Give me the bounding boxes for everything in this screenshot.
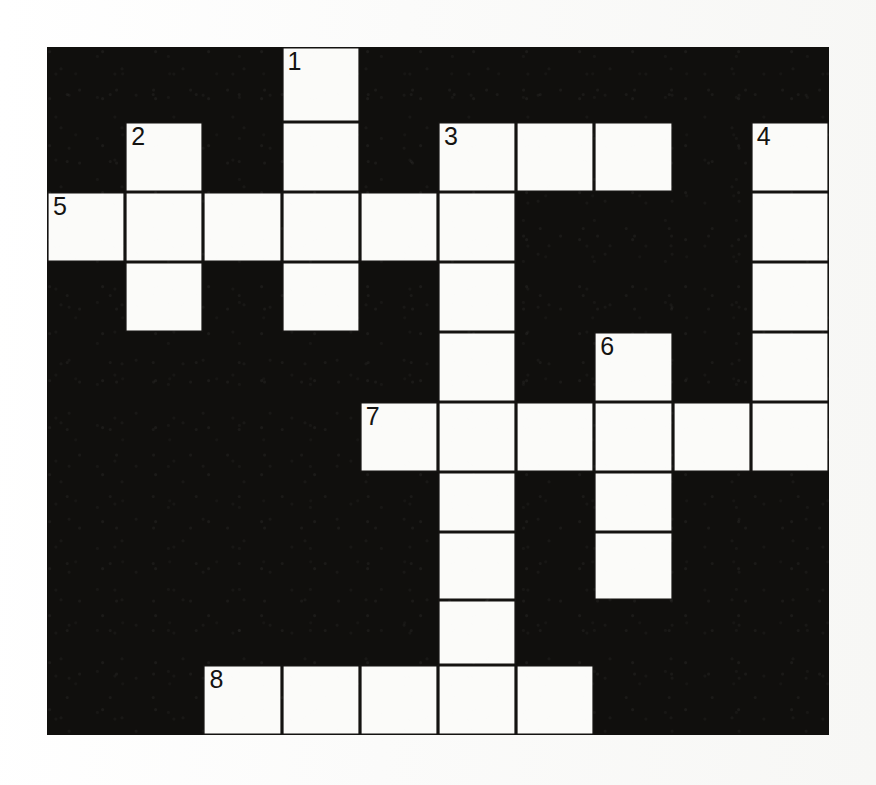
crossword-cell-block xyxy=(751,472,829,532)
crossword-cell-open[interactable] xyxy=(282,665,360,735)
crossword-cell-block xyxy=(203,122,281,192)
crossword-cell-block xyxy=(360,262,438,332)
crossword-cell-block xyxy=(125,402,203,472)
clue-number: 7 xyxy=(366,403,379,429)
crossword-cell-open[interactable] xyxy=(594,122,672,192)
crossword-cell-open[interactable] xyxy=(516,665,594,735)
crossword-cell-block xyxy=(360,332,438,402)
crossword-page: 12345678 xyxy=(0,0,876,785)
crossword-cell-block xyxy=(282,532,360,600)
crossword-cell-open[interactable]: 8 xyxy=(203,665,281,735)
crossword-cell-block xyxy=(673,47,751,122)
crossword-cell-open[interactable] xyxy=(125,192,203,262)
clue-number: 4 xyxy=(757,123,770,149)
crossword-cell-open[interactable]: 3 xyxy=(438,122,516,192)
crossword-cell-open[interactable] xyxy=(751,402,829,472)
crossword-cell-open[interactable] xyxy=(438,332,516,402)
crossword-cell-block xyxy=(594,47,672,122)
crossword-cell-open[interactable] xyxy=(282,122,360,192)
crossword-cell-block xyxy=(360,532,438,600)
crossword-cell-open[interactable] xyxy=(360,665,438,735)
crossword-cell-open[interactable] xyxy=(438,402,516,472)
crossword-cell-block xyxy=(673,332,751,402)
crossword-cell-open[interactable] xyxy=(594,532,672,600)
crossword-cell-block xyxy=(516,600,594,665)
clue-number: 8 xyxy=(209,666,222,692)
crossword-cell-open[interactable] xyxy=(438,262,516,332)
crossword-cell-block xyxy=(673,532,751,600)
crossword-cell-block xyxy=(360,122,438,192)
crossword-cell-block xyxy=(203,472,281,532)
crossword-grid[interactable]: 12345678 xyxy=(47,47,829,735)
crossword-cell-block xyxy=(47,532,125,600)
crossword-cell-block xyxy=(282,472,360,532)
crossword-cell-block xyxy=(594,600,672,665)
crossword-cell-block xyxy=(594,192,672,262)
crossword-cell-block xyxy=(203,332,281,402)
crossword-cell-open[interactable] xyxy=(673,402,751,472)
crossword-cell-block xyxy=(360,472,438,532)
crossword-cell-open[interactable] xyxy=(751,192,829,262)
crossword-cell-open[interactable] xyxy=(438,472,516,532)
crossword-cell-open[interactable] xyxy=(282,262,360,332)
crossword-cell-open[interactable]: 1 xyxy=(282,47,360,122)
crossword-cell-open[interactable] xyxy=(282,192,360,262)
crossword-cell-block xyxy=(203,262,281,332)
crossword-cell-block xyxy=(673,262,751,332)
crossword-cell-block xyxy=(47,47,125,122)
crossword-cell-block xyxy=(125,532,203,600)
crossword-cell-open[interactable]: 2 xyxy=(125,122,203,192)
clue-number: 5 xyxy=(53,193,66,219)
crossword-cell-open[interactable] xyxy=(594,402,672,472)
crossword-cell-block xyxy=(516,192,594,262)
crossword-cell-open[interactable]: 5 xyxy=(47,192,125,262)
crossword-cell-block xyxy=(47,332,125,402)
crossword-cell-open[interactable]: 7 xyxy=(360,402,438,472)
crossword-cell-block xyxy=(47,600,125,665)
crossword-cell-block xyxy=(438,47,516,122)
crossword-cell-open[interactable] xyxy=(360,192,438,262)
crossword-cell-block xyxy=(47,122,125,192)
crossword-cell-open[interactable] xyxy=(203,192,281,262)
crossword-cell-block xyxy=(594,262,672,332)
crossword-cell-open[interactable] xyxy=(516,122,594,192)
crossword-cell-block xyxy=(203,47,281,122)
crossword-cell-open[interactable]: 4 xyxy=(751,122,829,192)
crossword-cell-open[interactable] xyxy=(438,532,516,600)
crossword-cell-block xyxy=(125,47,203,122)
crossword-cell-open[interactable] xyxy=(594,472,672,532)
crossword-cell-block xyxy=(594,665,672,735)
crossword-cell-block xyxy=(516,472,594,532)
crossword-cell-block xyxy=(47,665,125,735)
crossword-cell-open[interactable] xyxy=(125,262,203,332)
crossword-cell-block xyxy=(673,122,751,192)
crossword-cell-block xyxy=(203,402,281,472)
crossword-cell-block xyxy=(751,600,829,665)
clue-number: 2 xyxy=(131,123,144,149)
crossword-cell-block xyxy=(673,665,751,735)
crossword-cell-open[interactable] xyxy=(438,665,516,735)
crossword-cell-block xyxy=(516,262,594,332)
clue-number: 3 xyxy=(444,123,457,149)
crossword-cell-block xyxy=(673,472,751,532)
crossword-cell-block xyxy=(516,532,594,600)
crossword-cell-open[interactable] xyxy=(438,192,516,262)
crossword-cell-open[interactable] xyxy=(751,332,829,402)
crossword-cell-block xyxy=(47,472,125,532)
clue-number: 1 xyxy=(288,48,301,74)
crossword-cell-block xyxy=(751,532,829,600)
crossword-cell-block xyxy=(751,47,829,122)
crossword-cell-block xyxy=(516,47,594,122)
crossword-cell-block xyxy=(203,532,281,600)
crossword-cell-open[interactable] xyxy=(438,600,516,665)
crossword-cell-open[interactable] xyxy=(751,262,829,332)
crossword-cell-block xyxy=(673,600,751,665)
crossword-cell-block xyxy=(125,665,203,735)
crossword-cell-block xyxy=(360,600,438,665)
clue-number: 6 xyxy=(600,333,613,359)
crossword-cell-block xyxy=(282,600,360,665)
crossword-cell-block xyxy=(751,665,829,735)
crossword-cell-block xyxy=(203,600,281,665)
crossword-cell-open[interactable]: 6 xyxy=(594,332,672,402)
crossword-cell-open[interactable] xyxy=(516,402,594,472)
